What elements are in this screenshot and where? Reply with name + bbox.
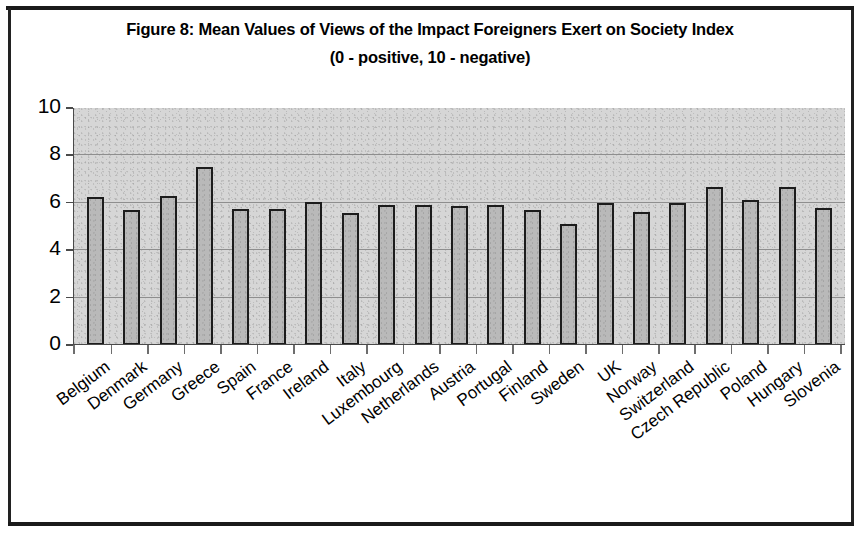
bar-slot bbox=[332, 108, 368, 345]
x-axis-tick bbox=[660, 345, 696, 354]
y-axis-label-0: 0 bbox=[17, 331, 61, 355]
bar-slot bbox=[186, 108, 222, 345]
page-border-top bbox=[6, 6, 854, 10]
bar-slot bbox=[514, 108, 550, 345]
figure-page: Figure 8: Mean Values of Views of the Im… bbox=[0, 0, 860, 537]
bar-slot bbox=[696, 108, 732, 345]
bar-slot bbox=[660, 108, 696, 345]
bar-slot bbox=[223, 108, 259, 345]
bar[interactable] bbox=[451, 206, 468, 345]
bar[interactable] bbox=[378, 205, 395, 345]
bar[interactable] bbox=[487, 205, 504, 345]
bar-series bbox=[74, 108, 845, 345]
bar[interactable] bbox=[232, 209, 249, 345]
y-axis-tick-2 bbox=[66, 297, 73, 299]
bar[interactable] bbox=[742, 200, 759, 345]
y-axis-tick-6 bbox=[66, 202, 73, 204]
bar-slot bbox=[805, 108, 841, 345]
bar[interactable] bbox=[815, 208, 832, 345]
y-axis-tick-10 bbox=[66, 107, 73, 109]
bar[interactable] bbox=[560, 224, 577, 345]
x-axis-tick bbox=[295, 345, 331, 354]
bar[interactable] bbox=[779, 187, 796, 345]
bar-slot bbox=[368, 108, 404, 345]
x-axis-tick bbox=[769, 345, 805, 354]
bar[interactable] bbox=[269, 209, 286, 345]
x-axis-labels: BelgiumDenmarkGermanyGreeceSpainFranceIr… bbox=[73, 357, 845, 517]
bar-slot bbox=[150, 108, 186, 345]
figure-title: Figure 8: Mean Values of Views of the Im… bbox=[40, 18, 820, 41]
plot-area bbox=[73, 108, 845, 345]
bar-slot bbox=[733, 108, 769, 345]
bar[interactable] bbox=[597, 203, 614, 345]
x-axis-tick bbox=[696, 345, 732, 354]
bar[interactable] bbox=[160, 196, 177, 345]
x-axis-tick bbox=[112, 345, 148, 354]
y-axis-label-10: 10 bbox=[17, 94, 61, 118]
x-axis-tick bbox=[368, 345, 404, 354]
bar-slot bbox=[77, 108, 113, 345]
x-axis-tick bbox=[514, 345, 550, 354]
y-axis-label-6: 6 bbox=[17, 189, 61, 213]
x-axis-tick bbox=[76, 345, 112, 354]
y-axis-label-4: 4 bbox=[17, 236, 61, 260]
bar-slot bbox=[550, 108, 586, 345]
bar[interactable] bbox=[706, 187, 723, 345]
y-axis-label-8: 8 bbox=[17, 141, 61, 165]
x-axis-tick bbox=[222, 345, 258, 354]
x-axis-tick bbox=[805, 345, 841, 354]
bar[interactable] bbox=[633, 212, 650, 345]
bar-slot bbox=[623, 108, 659, 345]
y-axis-tick-4 bbox=[66, 249, 73, 251]
x-axis-tick bbox=[623, 345, 659, 354]
y-axis-tick-0 bbox=[66, 344, 73, 346]
bar[interactable] bbox=[305, 202, 322, 345]
bar[interactable] bbox=[669, 203, 686, 345]
x-axis-tick bbox=[732, 345, 768, 354]
page-border-left bbox=[8, 8, 11, 526]
bar-slot bbox=[478, 108, 514, 345]
page-border-bottom bbox=[8, 522, 854, 526]
x-axis-tick bbox=[550, 345, 586, 354]
page-border-right bbox=[851, 10, 854, 526]
bar[interactable] bbox=[524, 210, 541, 345]
bar-slot bbox=[405, 108, 441, 345]
x-axis-tick bbox=[587, 345, 623, 354]
y-axis-tick-8 bbox=[66, 154, 73, 156]
bar-slot bbox=[259, 108, 295, 345]
x-axis-ticks bbox=[73, 345, 845, 354]
bar-slot bbox=[441, 108, 477, 345]
bar[interactable] bbox=[415, 205, 432, 345]
bar-slot bbox=[769, 108, 805, 345]
x-axis-tick bbox=[441, 345, 477, 354]
x-axis-tick bbox=[477, 345, 513, 354]
figure-subtitle: (0 - positive, 10 - negative) bbox=[40, 48, 820, 67]
bar-slot bbox=[296, 108, 332, 345]
x-axis-tick bbox=[185, 345, 221, 354]
bar[interactable] bbox=[87, 197, 104, 345]
bar[interactable] bbox=[123, 210, 140, 345]
bar-slot bbox=[113, 108, 149, 345]
bar[interactable] bbox=[196, 167, 213, 345]
x-axis-tick bbox=[149, 345, 185, 354]
x-axis-tick bbox=[258, 345, 294, 354]
bar-slot bbox=[587, 108, 623, 345]
x-axis-tick bbox=[331, 345, 367, 354]
x-axis-tick bbox=[404, 345, 440, 354]
bar[interactable] bbox=[342, 213, 359, 345]
y-axis-label-2: 2 bbox=[17, 284, 61, 308]
